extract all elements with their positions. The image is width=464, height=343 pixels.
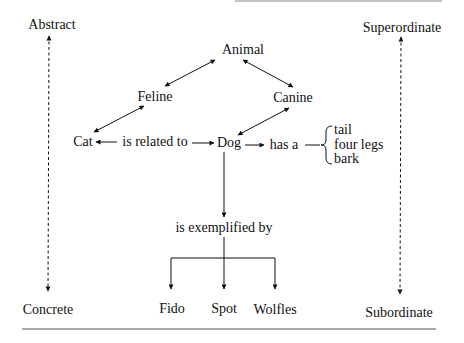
attribute-bark: bark bbox=[334, 151, 359, 167]
node-wolfles: Wolfles bbox=[253, 302, 296, 318]
node-dog: Dog bbox=[217, 135, 241, 151]
label-concrete: Concrete bbox=[23, 302, 74, 318]
canine-dog-arrow bbox=[238, 108, 289, 135]
node-animal: Animal bbox=[222, 42, 264, 58]
relation-has-a: has a bbox=[270, 137, 298, 153]
node-spot: Spot bbox=[211, 301, 237, 317]
animal-canine-arrow bbox=[243, 60, 293, 87]
node-is-exemplified-by: is exemplified by bbox=[175, 220, 272, 236]
feline-cat-arrow bbox=[94, 106, 144, 132]
label-superordinate: Superordinate bbox=[363, 20, 442, 36]
label-abstract: Abstract bbox=[28, 17, 75, 33]
node-cat: Cat bbox=[73, 134, 92, 150]
attribute-tail: tail bbox=[334, 122, 352, 138]
node-feline: Feline bbox=[138, 89, 173, 105]
node-fido: Fido bbox=[159, 301, 185, 317]
attributes-brace bbox=[321, 126, 332, 164]
abstract-concrete-arrow bbox=[48, 36, 49, 291]
relation-is-related-to: is related to bbox=[122, 134, 187, 150]
label-subordinate: Subordinate bbox=[365, 305, 433, 321]
node-canine: Canine bbox=[273, 90, 313, 106]
animal-feline-arrow bbox=[165, 60, 215, 86]
superordinate-subordinate-arrow bbox=[400, 37, 401, 294]
